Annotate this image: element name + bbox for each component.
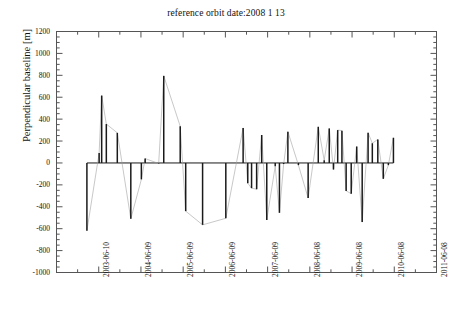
- x-tick-label: 2010-06-08: [397, 242, 406, 277]
- y-tick-label: -200: [16, 180, 50, 189]
- x-tick-label: 2005-06-09: [186, 242, 195, 277]
- y-tick-label: 200: [16, 137, 50, 146]
- x-tick-label: 2006-06-09: [228, 242, 237, 277]
- y-tick-label: 400: [16, 115, 50, 124]
- acquisition-connector-line: [87, 76, 394, 231]
- y-tick-label: -400: [16, 202, 50, 211]
- y-tick-label: 0: [16, 158, 50, 167]
- baseline-stems: [87, 76, 394, 231]
- y-tick-label: 800: [16, 71, 50, 80]
- x-tick-label: 2007-06-09: [271, 242, 280, 277]
- x-tick-label: 2009-06-08: [355, 242, 364, 277]
- plot-canvas: [0, 0, 452, 332]
- y-tick-label: 1000: [16, 49, 50, 58]
- x-tick-label: 2003-06-10: [102, 242, 111, 277]
- chart-root: reference orbit date:2008 1 13 Perpendic…: [0, 0, 452, 332]
- x-tick-label: 2011-06-08: [440, 242, 449, 277]
- y-tick-label: -800: [16, 246, 50, 255]
- y-tick-label: 600: [16, 93, 50, 102]
- x-axis-ticks: [78, 32, 437, 273]
- y-tick-label: -600: [16, 224, 50, 233]
- x-tick-label: 2004-06-09: [144, 242, 153, 277]
- y-tick-label: 1200: [16, 27, 50, 36]
- x-tick-label: 2008-06-08: [313, 242, 322, 277]
- y-tick-label: -1000: [16, 268, 50, 277]
